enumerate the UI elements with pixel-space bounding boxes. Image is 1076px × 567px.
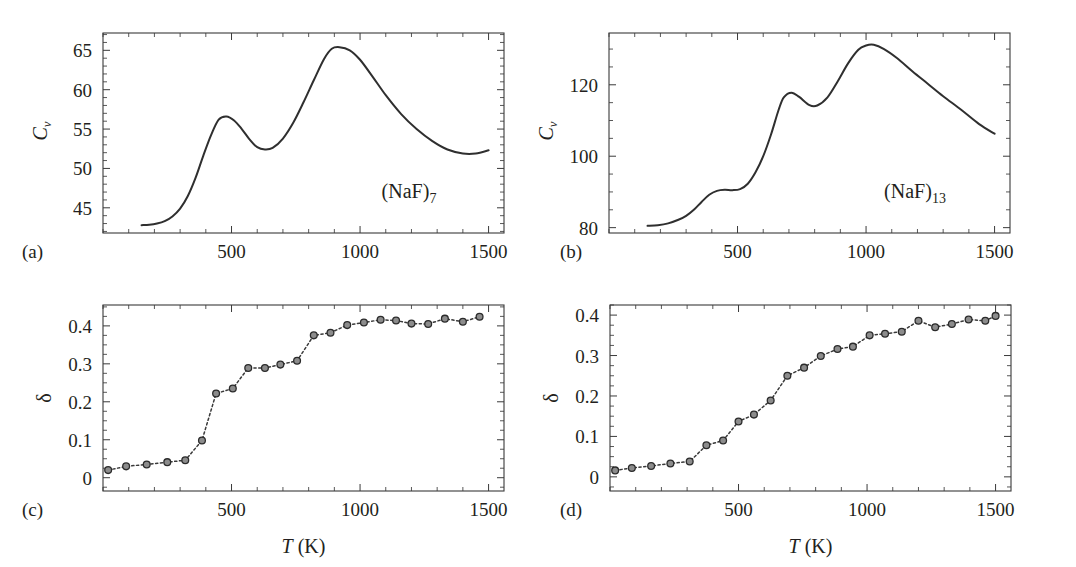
y-axis-label-sub: v xyxy=(39,121,54,127)
data-point-marker xyxy=(784,372,791,379)
x-tick-label: 1500 xyxy=(470,499,508,520)
x-tick-label: 1500 xyxy=(977,499,1015,520)
panel-b-plot: 5001000150080100120Cv(NaF)13(b) xyxy=(538,0,1076,284)
y-axis-label-text: δ xyxy=(33,393,55,402)
x-tick-label: 1000 xyxy=(341,241,379,262)
data-point-marker xyxy=(199,437,206,444)
y-tick-label: 100 xyxy=(570,146,599,167)
x-tick-label: 500 xyxy=(724,499,753,520)
data-point-marker xyxy=(817,353,824,360)
y-axis-label-base: C xyxy=(535,127,557,141)
y-tick-label: 0 xyxy=(590,467,600,488)
data-point-marker xyxy=(213,390,220,397)
data-point-marker xyxy=(105,467,112,474)
y-tick-label: 50 xyxy=(73,158,92,179)
figure-root: 500100015004550556065Cv(NaF)7(a) 5001000… xyxy=(0,0,1076,567)
x-axis-label-units: (K) xyxy=(293,535,326,558)
data-point-marker xyxy=(459,318,466,325)
data-curve xyxy=(142,47,489,225)
panel-letter: (d) xyxy=(560,499,582,521)
x-axis-label: T (K) xyxy=(789,535,833,558)
data-point-marker xyxy=(932,324,939,331)
data-point-marker xyxy=(915,317,922,324)
y-tick-label: 0.3 xyxy=(68,354,92,375)
x-tick-label: 500 xyxy=(217,499,246,520)
x-axis-label: T (K) xyxy=(282,535,326,558)
species-annotation: (NaF)13 xyxy=(884,180,946,206)
data-point-marker xyxy=(898,328,905,335)
data-point-marker xyxy=(882,330,889,337)
data-point-marker xyxy=(361,319,368,326)
data-point-marker xyxy=(310,332,317,339)
panel-letter: (a) xyxy=(22,241,43,263)
species-annotation-base: (NaF) xyxy=(884,180,932,203)
data-dotted-line xyxy=(615,316,995,470)
data-point-marker xyxy=(628,465,635,472)
data-point-marker xyxy=(408,320,415,327)
y-tick-label: 0.1 xyxy=(68,430,92,451)
y-tick-label: 0.1 xyxy=(575,426,599,447)
data-point-marker xyxy=(182,457,189,464)
y-axis-label: δ xyxy=(540,393,562,402)
species-annotation-subscript: 13 xyxy=(932,191,946,206)
plot-frame xyxy=(103,33,504,233)
species-annotation-base: (NaF) xyxy=(382,180,430,203)
plot-frame xyxy=(609,33,1010,233)
y-tick-label: 80 xyxy=(579,218,598,239)
data-point-marker xyxy=(686,458,693,465)
x-tick-label: 1000 xyxy=(848,499,886,520)
data-point-marker xyxy=(767,397,774,404)
data-point-marker xyxy=(377,316,384,323)
data-point-marker xyxy=(720,437,727,444)
data-point-marker xyxy=(735,418,742,425)
data-point-marker xyxy=(262,365,269,372)
data-point-marker xyxy=(344,322,351,329)
data-point-marker xyxy=(992,313,999,320)
panel-a: 500100015004550556065Cv(NaF)7(a) xyxy=(0,0,538,284)
y-tick-label: 60 xyxy=(73,80,92,101)
y-axis-label-sub: v xyxy=(545,121,560,127)
data-point-marker xyxy=(866,332,873,339)
y-axis-label-text: Cv xyxy=(29,121,54,140)
x-tick-label: 1000 xyxy=(847,241,885,262)
data-point-marker xyxy=(245,365,252,372)
data-dotted-line xyxy=(108,317,479,470)
data-point-marker xyxy=(801,364,808,371)
data-point-marker xyxy=(229,385,236,392)
panel-a-plot: 500100015004550556065Cv(NaF)7(a) xyxy=(0,0,538,284)
y-axis-label-base: C xyxy=(29,127,51,141)
y-axis-label: Cv xyxy=(535,121,560,140)
species-annotation: (NaF)7 xyxy=(382,180,437,206)
y-tick-label: 0.3 xyxy=(575,346,599,367)
data-point-marker xyxy=(476,313,483,320)
y-tick-label: 120 xyxy=(570,75,599,96)
y-tick-label: 0.4 xyxy=(68,316,92,337)
y-tick-label: 45 xyxy=(73,198,92,219)
data-point-marker xyxy=(612,467,619,474)
y-axis-label: δ xyxy=(33,393,55,402)
panel-letter: (c) xyxy=(22,499,43,521)
y-tick-label: 0.2 xyxy=(68,392,92,413)
panel-d: 5001000150000.10.20.30.4δT (K)(d) xyxy=(538,284,1076,567)
x-tick-label: 500 xyxy=(217,241,246,262)
x-tick-label: 1500 xyxy=(976,241,1014,262)
data-point-marker xyxy=(143,461,150,468)
data-point-marker xyxy=(441,315,448,322)
data-point-marker xyxy=(294,357,301,364)
data-point-marker xyxy=(393,317,400,324)
y-tick-label: 0.2 xyxy=(575,386,599,407)
y-tick-label: 55 xyxy=(73,119,92,140)
data-point-marker xyxy=(850,343,857,350)
panel-c: 5001000150000.10.20.30.4δT (K)(c) xyxy=(0,284,538,567)
data-point-marker xyxy=(834,346,841,353)
data-point-marker xyxy=(667,460,674,467)
y-tick-label: 65 xyxy=(73,40,92,61)
data-point-marker xyxy=(648,463,655,470)
data-point-marker xyxy=(277,361,284,368)
data-point-marker xyxy=(425,321,432,328)
x-tick-label: 1000 xyxy=(341,499,379,520)
panel-d-plot: 5001000150000.10.20.30.4δT (K)(d) xyxy=(538,284,1076,567)
y-axis-label-text: δ xyxy=(540,393,562,402)
data-point-marker xyxy=(327,329,334,336)
y-tick-label: 0.4 xyxy=(575,305,599,326)
